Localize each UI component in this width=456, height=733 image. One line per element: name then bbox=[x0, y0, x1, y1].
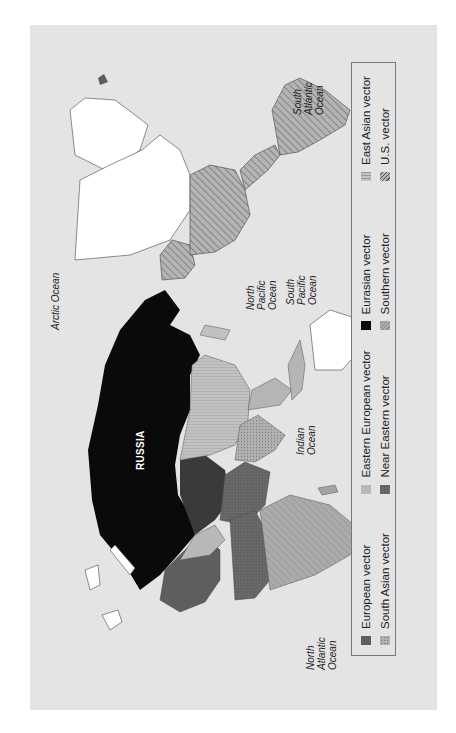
legend-label: Eurasian vector bbox=[360, 234, 372, 314]
map-figure: RUSSIA Arctic Ocean North Atlantic Ocean… bbox=[30, 25, 437, 710]
eastern-european-swatch-icon bbox=[361, 485, 371, 494]
south-atlantic-line-3: Ocean bbox=[314, 82, 325, 115]
legend-item-near-eastern: Near Eastern vector bbox=[379, 330, 391, 493]
franz-josef bbox=[85, 565, 100, 590]
us-swatch-icon bbox=[380, 172, 390, 181]
south-atlantic-line-2: Atlantic bbox=[303, 82, 314, 115]
legend-item-eastern-european: Eastern European vector bbox=[360, 330, 372, 493]
south-pacific-line-1: South bbox=[285, 276, 296, 305]
legend-item-south-asian: South Asian vector bbox=[379, 494, 391, 645]
legend-label: Near Eastern vector bbox=[379, 375, 391, 477]
european-swatch-icon bbox=[361, 636, 371, 645]
south-asian-swatch-icon bbox=[380, 636, 390, 645]
near-eastern-swatch-icon bbox=[380, 485, 390, 494]
legend-item-us: U.S. vector bbox=[379, 63, 391, 181]
indian-ocean-label: Indian Ocean bbox=[295, 426, 317, 455]
legend-item-east-asian: East Asian vector bbox=[360, 63, 372, 181]
indian-line-2: Ocean bbox=[306, 426, 317, 455]
indian-line-1: Indian bbox=[295, 426, 306, 455]
north-pacific-line-2: Pacific bbox=[256, 281, 267, 310]
north-atlantic-line-1: North bbox=[305, 637, 316, 670]
north-pacific-line-3: Ocean bbox=[267, 281, 278, 310]
svalbard bbox=[102, 610, 122, 630]
japan bbox=[200, 325, 230, 340]
north-atlantic-line-2: Atlantic bbox=[316, 637, 327, 670]
legend-item-southern: Southern vector bbox=[379, 181, 391, 330]
north-atlantic-line-3: Ocean bbox=[327, 637, 338, 670]
eurasian-swatch-icon bbox=[361, 321, 371, 330]
legend-label: European vector bbox=[360, 545, 372, 629]
north-pacific-ocean-label: North Pacific Ocean bbox=[245, 281, 278, 310]
south-pacific-line-3: Ocean bbox=[307, 276, 318, 305]
south-pacific-line-2: Pacific bbox=[296, 276, 307, 305]
southern-swatch-icon bbox=[380, 321, 390, 330]
africa bbox=[260, 495, 360, 590]
legend-item-eurasian: Eurasian vector bbox=[360, 181, 372, 330]
legend-label: U.S. vector bbox=[379, 108, 391, 165]
madagascar bbox=[318, 485, 338, 495]
rotated-map-canvas: RUSSIA Arctic Ocean North Atlantic Ocean… bbox=[30, 25, 437, 710]
legend-label: East Asian vector bbox=[360, 76, 372, 165]
arctic-ocean-label: Arctic Ocean bbox=[50, 273, 61, 330]
legend-label: Southern vector bbox=[379, 233, 391, 314]
legend-row-2: South Asian vector Near Eastern vector S… bbox=[375, 63, 394, 645]
legend-label: Eastern European vector bbox=[360, 350, 372, 477]
iceland bbox=[98, 74, 108, 85]
south-atlantic-line-1: South bbox=[292, 82, 303, 115]
east-asian-swatch-icon bbox=[361, 172, 371, 181]
south-pacific-ocean-label: South Pacific Ocean bbox=[285, 276, 318, 305]
legend-label: South Asian vector bbox=[379, 533, 391, 629]
map-legend: European vector Eastern European vector … bbox=[351, 62, 396, 656]
north-atlantic-ocean-label: North Atlantic Ocean bbox=[305, 637, 338, 670]
russia-label: RUSSIA bbox=[135, 430, 146, 470]
legend-item-european: European vector bbox=[360, 494, 372, 645]
southeast-asia bbox=[248, 378, 292, 410]
legend-row-1: European vector Eastern European vector … bbox=[356, 63, 375, 645]
north-pacific-line-1: North bbox=[245, 281, 256, 310]
mexico bbox=[240, 145, 280, 190]
south-atlantic-ocean-label: South Atlantic Ocean bbox=[292, 82, 325, 115]
usa bbox=[190, 165, 250, 255]
